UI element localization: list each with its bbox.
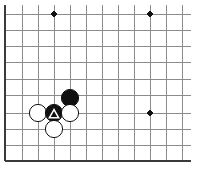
- white-stone-left[interactable]: [29, 104, 46, 121]
- white-stone-right-disc[interactable]: [61, 104, 78, 121]
- star-point-right-center: [147, 110, 153, 116]
- go-board-diagram: [0, 0, 199, 174]
- white-stone-left-disc[interactable]: [29, 104, 46, 121]
- black-stone-marked-disc[interactable]: [45, 104, 62, 121]
- white-stone-below[interactable]: [45, 120, 62, 137]
- board-background: [0, 0, 199, 174]
- star-point-top-right: [147, 11, 153, 17]
- star-point-top-left: [51, 11, 57, 17]
- black-stone-marked[interactable]: [45, 104, 62, 121]
- white-stone-right[interactable]: [61, 104, 78, 121]
- go-board-canvas[interactable]: [0, 0, 199, 174]
- white-stone-below-disc[interactable]: [45, 120, 62, 137]
